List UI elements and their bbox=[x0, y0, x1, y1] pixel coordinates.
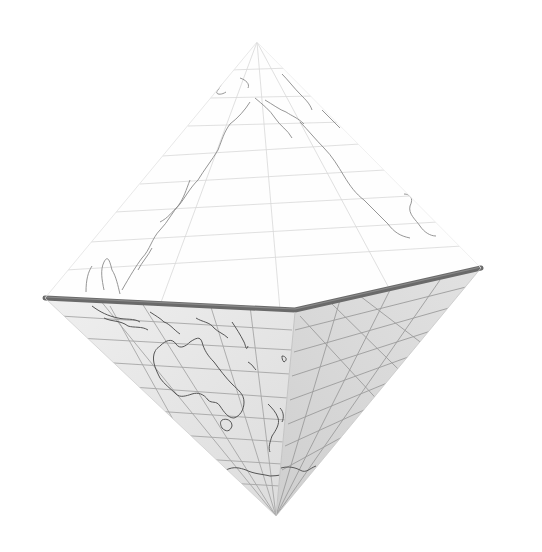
octahedron-svg bbox=[0, 0, 542, 552]
upper-face bbox=[45, 42, 481, 310]
lower-left-face bbox=[45, 298, 306, 516]
octahedron-map-figure: Octahedral world map projection rendered… bbox=[0, 0, 542, 552]
